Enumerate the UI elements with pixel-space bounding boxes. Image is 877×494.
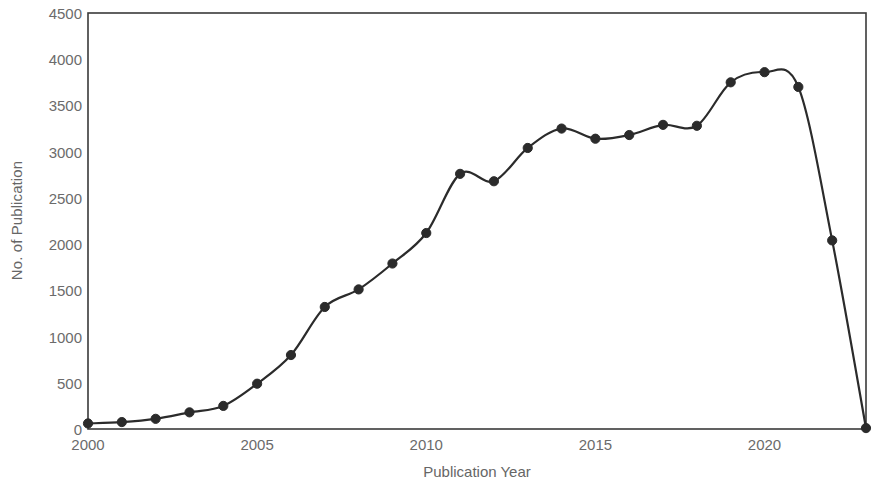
data-point-marker bbox=[455, 169, 464, 178]
x-tick-label: 2000 bbox=[71, 437, 104, 452]
x-tick-label: 2020 bbox=[748, 437, 781, 452]
x-tick-label: 2015 bbox=[579, 437, 612, 452]
publication-trend-chart: No. of Publication 050010001500200025003… bbox=[0, 0, 877, 494]
data-point-marker bbox=[523, 143, 532, 152]
x-axis-title: Publication Year bbox=[88, 463, 866, 480]
data-point-marker bbox=[388, 259, 397, 268]
data-point-marker bbox=[253, 379, 262, 388]
series-line-publications bbox=[88, 69, 866, 428]
data-point-marker bbox=[320, 302, 329, 311]
data-point-marker bbox=[760, 68, 769, 77]
data-point-marker bbox=[591, 134, 600, 143]
data-point-marker bbox=[117, 417, 126, 426]
data-point-marker bbox=[692, 121, 701, 130]
data-point-marker bbox=[185, 408, 194, 417]
data-point-marker bbox=[489, 177, 498, 186]
plot-area bbox=[0, 0, 877, 494]
x-axis-title-text: Publication Year bbox=[423, 463, 531, 480]
data-point-marker bbox=[219, 401, 228, 410]
x-tick-label: 2005 bbox=[240, 437, 273, 452]
data-point-marker bbox=[151, 414, 160, 423]
data-point-marker bbox=[828, 236, 837, 245]
data-point-marker bbox=[557, 124, 566, 133]
data-point-marker bbox=[861, 423, 870, 432]
data-point-marker bbox=[658, 120, 667, 129]
data-point-marker bbox=[83, 419, 92, 428]
data-point-marker bbox=[794, 82, 803, 91]
data-point-marker bbox=[625, 130, 634, 139]
data-point-marker bbox=[726, 78, 735, 87]
series-markers-publications bbox=[83, 68, 870, 433]
plot-frame bbox=[88, 13, 866, 429]
data-point-marker bbox=[286, 350, 295, 359]
data-point-marker bbox=[354, 285, 363, 294]
data-point-marker bbox=[422, 228, 431, 237]
x-tick-label: 2010 bbox=[410, 437, 443, 452]
